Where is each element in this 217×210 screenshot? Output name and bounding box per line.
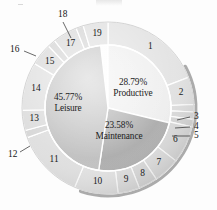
- ring-label-18: 18: [58, 9, 68, 19]
- top-crop-artifact-secondary: [18, 4, 23, 5]
- ring-label-5: 5: [194, 130, 199, 140]
- ring-label-1: 1: [148, 41, 153, 51]
- ring-label-17: 17: [66, 38, 76, 48]
- ring-label-15: 15: [45, 56, 55, 66]
- ring-label-9: 9: [124, 174, 129, 184]
- leisure-percent: 45.77%: [54, 92, 82, 102]
- ring-label-7: 7: [157, 157, 162, 167]
- nested-pie-chart-figure: 12678910111314151719 345121618 28.79% Pr…: [0, 0, 217, 210]
- chart-canvas: 12678910111314151719 345121618 28.79% Pr…: [0, 0, 217, 210]
- ring-label-19: 19: [92, 28, 102, 38]
- ring-label-16: 16: [10, 44, 20, 54]
- ring-label-3: 3: [194, 111, 199, 121]
- ring-label-10: 10: [93, 176, 103, 186]
- ring-label-6: 6: [173, 134, 178, 144]
- productive-percent: 28.79%: [119, 77, 147, 87]
- ring-label-8: 8: [140, 168, 145, 178]
- ring-label-12: 12: [8, 149, 18, 159]
- leader-line-12: [20, 146, 30, 152]
- leader-line-16: [24, 51, 36, 56]
- ring-label-14: 14: [31, 83, 41, 93]
- productive-name: Productive: [113, 88, 152, 98]
- maintenance-percent: 23.58%: [105, 120, 133, 130]
- top-crop-artifact: [96, 0, 122, 6]
- ring-label-13: 13: [30, 113, 40, 123]
- ring-label-11: 11: [50, 154, 59, 164]
- leisure-name: Leisure: [54, 103, 81, 113]
- inner-label-leisure: 45.77% Leisure: [54, 92, 82, 113]
- maintenance-name: Maintenance: [96, 131, 143, 141]
- ring-label-2: 2: [179, 87, 184, 97]
- inner-label-productive: 28.79% Productive: [113, 77, 152, 98]
